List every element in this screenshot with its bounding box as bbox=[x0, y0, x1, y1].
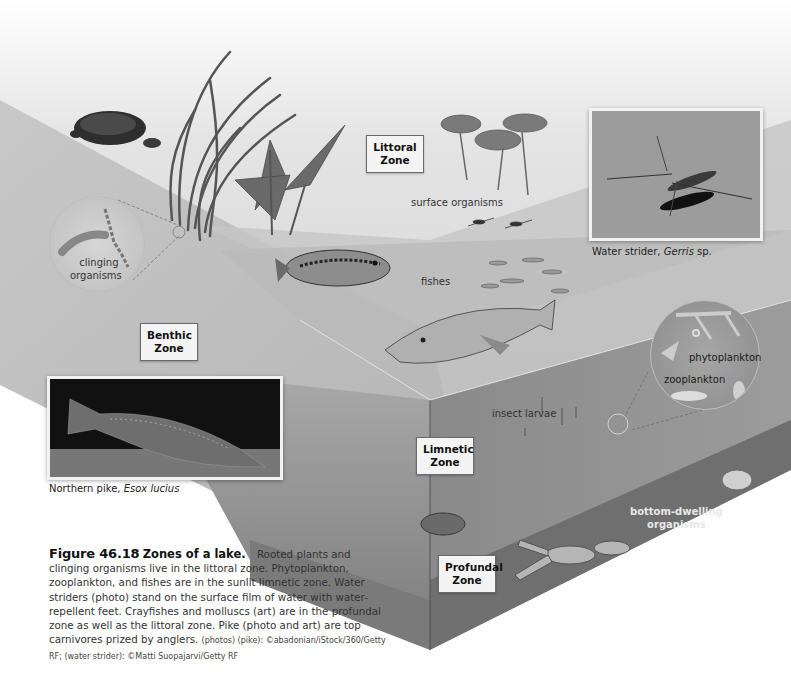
figure-caption: Figure 46.18 Zones of a lake. Rooted pla… bbox=[49, 547, 389, 665]
benthic-zone-label: BenthicZone bbox=[140, 323, 198, 361]
clinging-organisms-label: clinging organisms bbox=[76, 256, 122, 282]
northern-pike-photo bbox=[47, 376, 283, 480]
water-strider-caption: Water strider, Gerris sp. bbox=[592, 246, 712, 257]
figure-title: Zones of a lake. bbox=[143, 547, 246, 561]
phytoplankton-label: phytoplankton bbox=[689, 352, 761, 363]
bottom-dwelling-organisms-label: bottom-dwelling organisms bbox=[630, 505, 723, 531]
littoral-zone-label: LittoralZone bbox=[366, 135, 424, 173]
insect-larvae-label: insect larvae bbox=[492, 408, 556, 419]
water-strider-icon bbox=[592, 111, 760, 238]
pike-photo-icon bbox=[50, 379, 280, 477]
figure-caption-text: Rooted plants and clinging organisms liv… bbox=[49, 548, 381, 645]
surface-organisms-label: surface organisms bbox=[411, 197, 503, 208]
limnetic-zone-label: LimneticZone bbox=[416, 437, 474, 475]
northern-pike-caption: Northern pike, Esox lucius bbox=[49, 483, 179, 494]
profundal-zone-label: ProfundalZone bbox=[438, 555, 496, 593]
fishes-label: fishes bbox=[421, 276, 450, 287]
mussel-illustration bbox=[421, 513, 465, 535]
water-strider-photo bbox=[589, 108, 763, 241]
figure-number: Figure 46.18 bbox=[49, 546, 139, 561]
snail-illustration bbox=[722, 470, 752, 490]
zooplankton-label: zooplankton bbox=[664, 374, 725, 385]
